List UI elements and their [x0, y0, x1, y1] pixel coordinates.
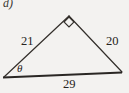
geometry-figure: d) 21 20 29 θ — [0, 0, 129, 93]
side-length-label-right: 20 — [106, 35, 119, 48]
triangle-left-side — [4, 16, 69, 77]
angle-label-theta: θ — [17, 63, 22, 74]
part-label: d) — [3, 0, 13, 9]
side-length-label-left: 21 — [21, 35, 34, 48]
side-length-label-bottom: 29 — [63, 78, 76, 91]
